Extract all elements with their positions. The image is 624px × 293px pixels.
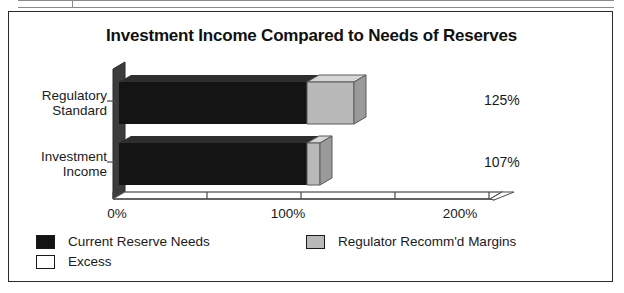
bar-row-0-segment-regulator-margins xyxy=(307,75,366,124)
legend-label-excess: Excess xyxy=(68,254,112,269)
legend-label-current-reserve-needs: Current Reserve Needs xyxy=(68,234,210,249)
legend-swatch-black-icon xyxy=(36,235,55,249)
legend-swatch-white-icon xyxy=(36,255,55,269)
page-fragment-bottom-rule xyxy=(18,7,614,8)
plot-area: Regulatory Standard Investment Income 12… xyxy=(9,12,614,283)
y-axis-label-line-2: Income xyxy=(21,164,107,179)
bar-row-0-segment-current-reserve-needs xyxy=(119,75,319,124)
data-label-regulatory-standard: 125% xyxy=(484,92,520,108)
y-axis-label-regulatory-standard: Regulatory Standard xyxy=(21,88,107,118)
chart-frame: Investment Income Compared to Needs of R… xyxy=(8,11,613,282)
legend-item-excess: Excess xyxy=(36,254,112,269)
legend-item-regulator-margins: Regulator Recomm'd Margins xyxy=(306,234,516,249)
y-axis-label-investment-income: Investment Income xyxy=(21,149,107,179)
bar-row-1-segment-regulator-margins xyxy=(307,136,332,185)
x-axis-tick-label-200: 200% xyxy=(430,206,490,221)
data-label-investment-income: 107% xyxy=(484,154,520,170)
legend-swatch-gray-icon xyxy=(306,235,325,249)
page-fragment-top-rule xyxy=(18,0,614,1)
x-axis-tick-label-0: 0% xyxy=(87,206,147,221)
axis-floor xyxy=(113,192,502,199)
x-axis-tick-label-100: 100% xyxy=(258,206,318,221)
scanned-page-fragment xyxy=(0,0,624,9)
bar-row-1-segment-current-reserve-needs xyxy=(119,136,319,185)
legend-item-current-reserve-needs: Current Reserve Needs xyxy=(36,234,210,249)
page-fragment-divider xyxy=(72,0,73,8)
chart-legend: Current Reserve Needs Excess Regulator R… xyxy=(9,234,614,278)
legend-label-regulator-margins: Regulator Recomm'd Margins xyxy=(338,234,516,249)
y-axis-label-line-1: Investment xyxy=(21,149,107,164)
y-axis-label-line-2: Standard xyxy=(21,103,107,118)
y-axis-label-line-1: Regulatory xyxy=(21,88,107,103)
